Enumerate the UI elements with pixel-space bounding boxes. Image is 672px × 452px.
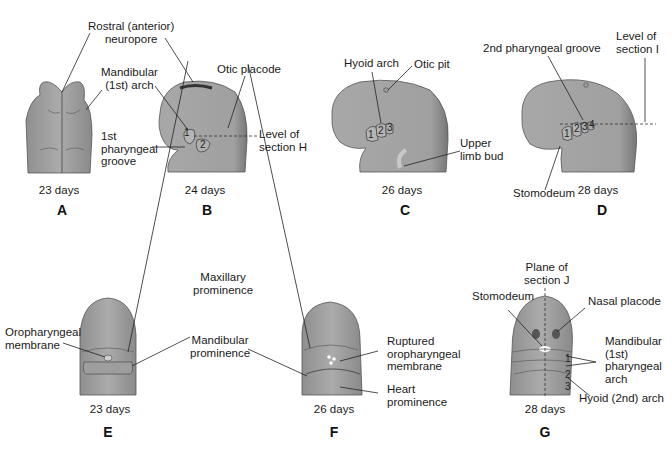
label-otic-pit: Otic pit: [414, 58, 450, 71]
label-heart-prominence: Heartprominence: [387, 383, 447, 408]
label-second-pharyngeal-groove: 2nd pharyngeal groove: [483, 42, 601, 55]
age-label-e: 23 days: [90, 403, 130, 415]
label-rostral-neuropore: Rostral (anterior)neuropore: [88, 20, 174, 45]
embryo-e-frontal: [80, 298, 136, 395]
embryo-a-dorsal: [26, 82, 92, 173]
label-stomodeum-d: Stomodeum: [513, 187, 575, 200]
arch-number: 1: [368, 129, 374, 140]
arch-number: 3: [565, 381, 571, 392]
embryo-g-frontal: [510, 288, 572, 398]
age-label-g: 28 days: [525, 403, 565, 415]
arch-number: 2: [565, 369, 571, 380]
label-upper-limb-bud: Upperlimb bud: [460, 137, 503, 162]
label-mandibular-pharyngeal-arch: Mandibular(1st)pharyngealarch: [605, 335, 662, 385]
panel-letter-c: C: [400, 202, 410, 218]
embryo-b-lateral: [159, 81, 258, 172]
label-hyoid-2nd-arch: Hyoid (2nd) arch: [579, 392, 664, 405]
arch-number: 2: [574, 123, 580, 134]
arch-number: 4: [589, 119, 595, 130]
panel-letter-b: B: [202, 202, 212, 218]
panel-letter-g: G: [540, 424, 551, 440]
panel-letter-d: D: [597, 202, 607, 218]
label-level-section-i: Level ofsection I: [616, 30, 659, 55]
label-ruptured-oropharyngeal-membrane: Rupturedoropharyngealmembrane: [387, 335, 461, 373]
arch-number: 1: [184, 127, 190, 138]
label-nasal-placode: Nasal placode: [588, 295, 661, 308]
arch-number: 1: [565, 353, 571, 364]
label-mandibular-prominence: Mandibularprominence: [190, 334, 250, 359]
label-mandibular-arch: Mandibular(1st) arch: [101, 66, 158, 91]
arch-number: 3: [387, 122, 393, 133]
arch-number: 2: [378, 125, 384, 136]
label-otic-placode: Otic placode: [217, 63, 281, 76]
age-label-c: 26 days: [382, 184, 422, 196]
label-first-pharyngeal-groove: 1stpharyngealgroove: [101, 130, 158, 168]
embryo-f-frontal: [302, 302, 362, 395]
age-label-f: 26 days: [314, 403, 354, 415]
label-oropharyngeal-membrane: Oropharyngealmembrane: [5, 326, 81, 351]
label-level-section-h: Level ofsection H: [259, 128, 307, 153]
panel-letter-e: E: [103, 424, 112, 440]
label-plane-section-j: Plane ofsection J: [524, 261, 569, 286]
age-label-b: 24 days: [185, 184, 225, 196]
panel-letter-a: A: [57, 202, 67, 218]
arch-number: 2: [200, 139, 206, 150]
arch-number: 1: [564, 128, 570, 139]
label-stomodeum-g: Stomodeum: [472, 290, 534, 303]
label-hyoid-arch: Hyoid arch: [344, 57, 399, 70]
age-label-a: 23 days: [39, 184, 79, 196]
age-label-d: 28 days: [578, 184, 618, 196]
label-maxillary-prominence: Maxillaryprominence: [193, 271, 253, 296]
arch-number: 3: [582, 121, 588, 132]
panel-letter-f: F: [330, 424, 339, 440]
